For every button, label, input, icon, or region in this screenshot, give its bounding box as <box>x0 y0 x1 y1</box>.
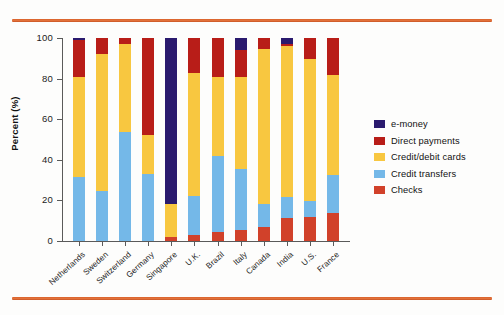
bar-stack[interactable] <box>258 38 270 241</box>
bar-segment <box>119 44 131 132</box>
bar-segment <box>165 237 177 241</box>
bar-segment <box>188 196 200 235</box>
legend-swatch-icon <box>374 186 385 194</box>
x-tick-mark <box>218 242 219 246</box>
legend-item[interactable]: e-money <box>374 116 500 133</box>
bar-segment <box>73 177 85 241</box>
x-tick-mark <box>102 242 103 246</box>
x-tick-mark <box>148 242 149 246</box>
bar-segment <box>142 38 154 135</box>
bar-stack[interactable] <box>165 38 177 241</box>
y-axis-tick-labels: 020406080100 <box>24 0 53 315</box>
legend-swatch-icon <box>374 170 385 178</box>
x-tick-mark <box>79 242 80 246</box>
x-tick-mark <box>287 242 288 246</box>
legend-item-label: Credit/debit cards <box>391 152 466 162</box>
bar-segment <box>119 38 131 44</box>
x-tick-mark <box>241 242 242 246</box>
bar-segment <box>142 174 154 241</box>
bar-segment <box>119 132 131 241</box>
bar-segment <box>258 49 270 204</box>
chart-legend: e-moneyDirect paymentsCredit/debit cards… <box>374 116 500 199</box>
legend-swatch-icon <box>374 120 385 128</box>
chart-figure: Percent (%) 020406080100 NetherlandsSwed… <box>0 0 504 315</box>
bar-segment <box>96 54 108 191</box>
bar-segment <box>281 197 293 217</box>
bar-segment <box>188 73 200 197</box>
bar-stack[interactable] <box>96 38 108 241</box>
bar-stack[interactable] <box>119 38 131 241</box>
bar-segment <box>188 38 200 73</box>
decorative-rule-top <box>12 19 492 22</box>
bar-segment <box>235 230 247 241</box>
bar-segment <box>165 38 177 204</box>
bar-segment <box>281 38 293 44</box>
bar-segment <box>165 204 177 236</box>
bar-stack[interactable] <box>281 38 293 241</box>
bar-segment <box>281 218 293 241</box>
bar-segment <box>258 38 270 49</box>
bar-segment <box>235 50 247 76</box>
x-axis-line <box>62 241 350 242</box>
bar-segment <box>258 227 270 241</box>
y-axis-title: Percent (%) <box>9 78 20 170</box>
x-tick-mark <box>310 242 311 246</box>
plot-area <box>62 38 339 241</box>
bar-segment <box>212 77 224 156</box>
legend-swatch-icon <box>374 153 385 161</box>
y-tick-label: 0 <box>27 235 53 246</box>
bar-segment <box>96 38 108 54</box>
bar-stack[interactable] <box>73 38 85 241</box>
legend-item-label: Checks <box>391 185 423 195</box>
legend-item[interactable]: Credit transfers <box>374 166 500 183</box>
legend-item-label: Direct payments <box>391 136 460 146</box>
bar-segment <box>304 217 316 241</box>
bar-stack[interactable] <box>327 38 339 241</box>
x-tick-mark <box>125 242 126 246</box>
y-tick-label: 100 <box>27 32 53 43</box>
bar-segment <box>235 38 247 50</box>
bar-segment <box>235 77 247 169</box>
legend-item[interactable]: Checks <box>374 182 500 199</box>
bar-segment <box>304 59 316 201</box>
bar-segment <box>73 77 85 177</box>
x-tick-mark <box>264 242 265 246</box>
bar-stack[interactable] <box>304 38 316 241</box>
y-tick-label: 80 <box>27 73 53 84</box>
y-tick-label: 20 <box>27 194 53 205</box>
legend-item-label: Credit transfers <box>391 169 456 179</box>
bar-segment <box>327 75 339 175</box>
bar-segment <box>142 135 154 174</box>
bar-stack[interactable] <box>212 38 224 241</box>
x-tick-mark <box>171 242 172 246</box>
bar-segment <box>212 232 224 241</box>
bar-segment <box>258 204 270 226</box>
bar-segment <box>73 38 85 40</box>
bar-stack[interactable] <box>142 38 154 241</box>
legend-item-label: e-money <box>391 119 428 129</box>
bar-segment <box>327 213 339 241</box>
bar-segment <box>212 156 224 232</box>
bar-segment <box>281 46 293 197</box>
decorative-rule-bottom <box>12 297 492 300</box>
legend-item[interactable]: Credit/debit cards <box>374 149 500 166</box>
bar-segment <box>96 191 108 241</box>
bar-stack[interactable] <box>188 38 200 241</box>
bar-stack[interactable] <box>235 38 247 241</box>
bar-segment <box>212 38 224 77</box>
legend-swatch-icon <box>374 137 385 145</box>
x-tick-mark <box>194 242 195 246</box>
legend-item[interactable]: Direct payments <box>374 133 500 150</box>
bar-segment <box>304 201 316 216</box>
bar-segment <box>235 169 247 230</box>
bar-segment <box>188 235 200 241</box>
bar-segment <box>73 40 85 77</box>
y-tick-label: 60 <box>27 113 53 124</box>
bar-segment <box>327 175 339 213</box>
bar-segment <box>281 44 293 46</box>
x-tick-mark <box>333 242 334 246</box>
bar-segment <box>327 38 339 75</box>
bar-segment <box>304 38 316 59</box>
y-tick-label: 40 <box>27 154 53 165</box>
